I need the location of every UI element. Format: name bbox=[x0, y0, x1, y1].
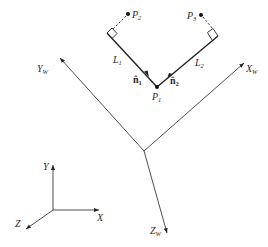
world-z-label: ZW bbox=[150, 225, 162, 237]
p3-label: P3 bbox=[186, 10, 197, 22]
local-x-label: X bbox=[96, 212, 104, 223]
p3-perpendicular-dashed bbox=[203, 17, 212, 28]
world-y-label: YW bbox=[37, 63, 49, 75]
world-z-axis bbox=[144, 151, 167, 233]
l2-label: L2 bbox=[194, 57, 205, 69]
local-z-axis bbox=[26, 210, 53, 229]
right-angle-mark-l1 bbox=[107, 28, 117, 39]
world-x-label: XW bbox=[245, 63, 258, 75]
line-l2 bbox=[157, 36, 218, 87]
right-angle-mark-l2 bbox=[208, 29, 219, 41]
local-z-label: Z bbox=[15, 218, 21, 229]
p2-label: P2 bbox=[131, 9, 142, 21]
point-p3 bbox=[199, 13, 203, 17]
point-p2 bbox=[126, 12, 130, 16]
perpendicular-marks bbox=[107, 16, 218, 40]
l1-label: L1 bbox=[112, 54, 122, 66]
n1-label: n̂1 bbox=[133, 74, 142, 86]
points: P1 P2 P3 bbox=[126, 9, 203, 103]
diagram-canvas: YW XW ZW Y X Z L1 L2 n̂1 n̂2 P1 P2 P3 bbox=[0, 0, 268, 247]
local-y-label: Y bbox=[43, 161, 50, 172]
world-y-axis bbox=[60, 58, 144, 151]
point-p1 bbox=[155, 85, 159, 89]
line-segments: L1 L2 n̂1 n̂2 bbox=[107, 33, 218, 87]
n2-label: n̂2 bbox=[170, 75, 179, 87]
p2-perpendicular-dashed bbox=[113, 16, 126, 29]
p1-label: P1 bbox=[151, 91, 161, 103]
world-x-axis bbox=[144, 63, 244, 151]
local-axes: Y X Z bbox=[15, 161, 104, 229]
